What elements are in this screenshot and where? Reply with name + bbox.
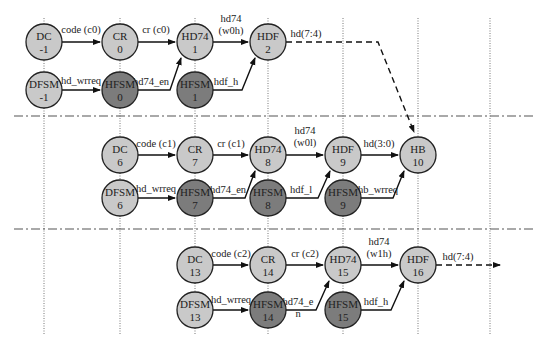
edge-label: code (c1) (136, 138, 176, 150)
time-step-gridlines (44, 18, 490, 335)
edge-label: hd74 (369, 236, 391, 247)
node-cr-14: CR14 (250, 247, 286, 283)
node-dc-m1: DC-1 (26, 24, 62, 60)
node-step: 7 (192, 199, 198, 211)
node-name: DFSM (180, 298, 210, 310)
edge-label: cr (c0) (142, 24, 170, 36)
edge-e6: hd74_en (133, 58, 181, 90)
node-name: DC (112, 143, 127, 155)
edge-e11: hd(3:0) (361, 138, 398, 155)
edge-e15: hb_wrreq (358, 171, 404, 198)
node-dc-13: DC13 (177, 247, 213, 283)
node-hb-10: HB10 (400, 137, 436, 173)
node-step: 15 (338, 266, 350, 278)
node-name: HFSM (253, 298, 283, 310)
node-step: 16 (413, 266, 425, 278)
node-hfsm-15: HFSM15 (325, 292, 361, 328)
edge-e13: hd74_en (210, 171, 255, 198)
edge-label: hd74_en (210, 184, 247, 195)
edge-label: cr (c1) (217, 138, 245, 150)
node-dc-6: DC6 (102, 137, 138, 173)
node-hfsm-14: HFSM14 (250, 292, 286, 328)
edge-label: hd74 (221, 13, 243, 24)
node-step: 0 (117, 43, 123, 55)
edge-label: hd(3:0) (364, 138, 395, 150)
node-name: HDF (407, 253, 429, 265)
node-hd74-15: HD7415 (325, 247, 361, 283)
edge-label: cr (c2) (291, 248, 319, 260)
edge-label: hdf_h (364, 296, 389, 307)
edge-label: hd_wrreq (211, 294, 252, 305)
edge-e22: hdf_h (361, 281, 404, 310)
node-step: 9 (340, 156, 346, 168)
node-name: HFSM (180, 186, 210, 198)
node-name: HB (410, 143, 425, 155)
node-name: DC (36, 30, 51, 42)
edge-label: n (295, 308, 301, 319)
edge-label: (w0h) (218, 25, 244, 37)
node-step: 15 (338, 311, 350, 323)
node-hdf-2: HDF2 (250, 24, 286, 60)
node-hdf-9: HDF9 (325, 137, 361, 173)
edge-label: code (c2) (211, 248, 251, 260)
edge-e21: hd_wrreq (211, 294, 252, 310)
node-hdf-16: HDF16 (400, 247, 436, 283)
node-name: DC (187, 253, 202, 265)
edge-label: hdf_l (290, 184, 312, 195)
node-name: HFSM (253, 186, 283, 198)
node-step: 13 (190, 311, 202, 323)
edge-label: hd74_e (283, 296, 314, 307)
edge-e16: code (c2) (211, 248, 251, 265)
node-hfsm-8: HFSM8 (250, 180, 286, 216)
edge-e9: cr (c1) (213, 138, 248, 155)
node-step: -1 (39, 91, 48, 103)
node-hd74-8: HD748 (250, 137, 286, 173)
node-cr-0: CR0 (102, 24, 138, 60)
node-name: HD74 (330, 253, 357, 265)
edge-e7: hdf_h (213, 58, 255, 90)
node-step: 10 (413, 156, 425, 168)
node-step: 1 (192, 91, 198, 103)
node-name: HFSM (328, 186, 358, 198)
node-name: HFSM (328, 298, 358, 310)
node-step: 2 (265, 43, 271, 55)
edge-e3: hd74(w0h) (213, 13, 248, 42)
node-step: 14 (263, 266, 275, 278)
node-step: 9 (340, 199, 346, 211)
node-dfsm-6: DFSM6 (102, 180, 138, 216)
operation-nodes: DC-1CR0HD741HDF2DFSM-1HFSM0HFSM1DC6CR7HD… (26, 24, 436, 328)
node-step: 7 (192, 156, 198, 168)
edge-label: (w1h) (366, 248, 392, 260)
edge-e12: hd_wrreq (136, 183, 177, 198)
node-step: 1 (192, 43, 198, 55)
node-name: CR (261, 253, 276, 265)
node-name: CR (113, 30, 128, 42)
node-hd74-1: HD741 (177, 24, 213, 60)
edge-label: hd_wrreq (61, 75, 102, 86)
node-step: 13 (190, 266, 202, 278)
node-dfsm-13: DFSM13 (177, 292, 213, 328)
edge-label: hd74 (295, 125, 317, 136)
pipeline-schedule-diagram: code (c0)cr (c0)hd74(w0h)hd(7:4)hd_wrreq… (0, 0, 541, 351)
edge-label: (w0l) (294, 137, 317, 149)
node-step: 8 (265, 199, 271, 211)
edge-e14: hdf_l (286, 171, 330, 198)
node-step: -1 (39, 43, 48, 55)
edge-label: hd74_en (133, 76, 170, 87)
node-name: HD74 (182, 30, 209, 42)
node-cr-7: CR7 (177, 137, 213, 173)
node-name: HFSM (180, 78, 210, 90)
edge-e1: code (c0) (61, 24, 101, 42)
node-step: 6 (117, 199, 123, 211)
node-hfsm-7: HFSM7 (177, 180, 213, 216)
node-step: 14 (263, 311, 275, 323)
edge-label: hd(7:4) (443, 251, 474, 263)
node-step: 6 (117, 156, 123, 168)
node-hfsm-0: HFSM0 (102, 72, 138, 108)
node-name: DFSM (105, 186, 135, 198)
node-name: HFSM (105, 78, 135, 90)
node-name: HDF (257, 30, 279, 42)
node-name: HDF (332, 143, 354, 155)
node-step: 8 (265, 156, 271, 168)
edge-label: hdf_h (214, 76, 239, 87)
